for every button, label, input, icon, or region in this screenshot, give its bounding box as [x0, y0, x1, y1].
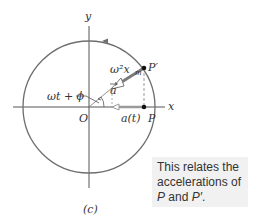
point-p-label: P	[147, 112, 156, 125]
projected-arrowhead-icon	[112, 104, 119, 110]
point-p-prime-label: P′	[147, 61, 158, 74]
point-p-prime	[142, 66, 147, 71]
diagram-stage: y x O P P′ ω²x m a ωt + ϕ a(t) (c) This …	[0, 0, 253, 224]
caption-p-prime: P′	[192, 190, 202, 204]
projection-label: a(t)	[121, 112, 141, 125]
point-p	[142, 105, 147, 110]
angle-label: ωt + ϕ	[47, 90, 85, 103]
caption-and: and	[165, 190, 192, 204]
caption-line-2: accelerations of	[157, 175, 248, 190]
caption-line-1: This relates the	[157, 160, 248, 175]
caption-line-3: P and P′.	[157, 190, 248, 205]
x-axis-label: x	[168, 100, 175, 113]
magnitude-label: ω²x	[110, 63, 130, 76]
caption-p: P	[157, 190, 165, 204]
caption-period: .	[202, 190, 205, 204]
y-axis-label: y	[84, 10, 92, 23]
caption-box: This relates the accelerations of P and …	[152, 157, 248, 207]
panel-label: (c)	[83, 203, 98, 216]
magnitude-subscript: m	[135, 69, 142, 77]
vector-a-label: a	[110, 84, 117, 97]
angle-arc	[101, 97, 104, 107]
origin-label: O	[79, 112, 88, 125]
